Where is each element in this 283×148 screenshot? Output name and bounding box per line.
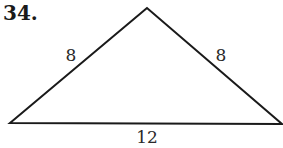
isosceles-triangle-figure: 8 8 12 bbox=[0, 0, 283, 148]
right-side-length-label: 8 bbox=[216, 45, 227, 65]
base-length-label: 12 bbox=[136, 127, 158, 147]
left-side-length-label: 8 bbox=[66, 45, 77, 65]
triangle-outline bbox=[10, 8, 282, 124]
